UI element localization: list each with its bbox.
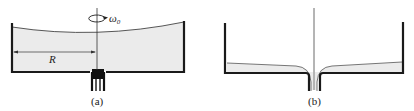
radius-label: R — [48, 53, 56, 65]
liquid-a — [12, 22, 184, 71]
caption-a: (a) — [91, 95, 104, 108]
omega-label: ω0 — [109, 12, 121, 26]
panel-b: (b) — [225, 8, 403, 108]
panel-a: ω0 R (a) — [12, 8, 184, 108]
rotation-arrow-icon — [89, 15, 104, 22]
diagram-canvas: ω0 R (a) (b) — [0, 0, 414, 111]
drain-plug-a — [92, 69, 104, 79]
caption-b: (b) — [308, 95, 321, 108]
